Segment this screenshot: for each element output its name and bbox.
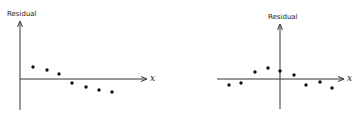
data-point bbox=[253, 70, 256, 73]
right-y-axis-label: Residual bbox=[268, 13, 298, 21]
data-point bbox=[227, 83, 230, 86]
data-point bbox=[292, 73, 295, 76]
data-point bbox=[304, 83, 307, 86]
data-point bbox=[57, 72, 60, 75]
data-point bbox=[84, 85, 87, 88]
left-y-axis-label: Residual bbox=[7, 10, 37, 18]
left-x-axis-label: x bbox=[150, 73, 155, 83]
data-point bbox=[70, 81, 73, 84]
left-residual-plot: Residual x bbox=[7, 10, 155, 110]
data-point bbox=[278, 69, 281, 72]
right-x-axis-label: x bbox=[347, 73, 352, 83]
data-point bbox=[318, 80, 321, 83]
data-point bbox=[266, 66, 269, 69]
data-point bbox=[31, 65, 34, 68]
data-point bbox=[239, 81, 242, 84]
residual-plots: Residual x Residual x bbox=[0, 0, 361, 113]
data-point bbox=[97, 88, 100, 91]
data-point bbox=[45, 68, 48, 71]
right-residual-plot: Residual x bbox=[217, 13, 352, 109]
data-point bbox=[330, 86, 333, 89]
data-point bbox=[110, 90, 113, 93]
